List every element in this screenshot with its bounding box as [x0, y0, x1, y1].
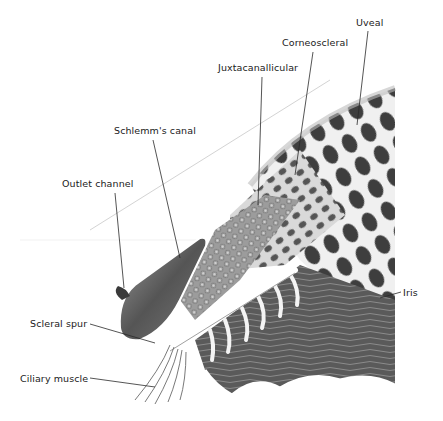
label-ciliary-muscle: Ciliary muscle — [20, 373, 88, 384]
label-juxtacanallicular: Juxtacanallicular — [218, 62, 298, 73]
label-uveal: Uveal — [356, 17, 383, 28]
label-schlemms-canal: Schlemm's canal — [114, 125, 196, 136]
label-corneoscleral: Corneoscleral — [282, 37, 348, 48]
label-scleral-spur: Scleral spur — [30, 318, 87, 329]
label-iris: Iris — [403, 287, 418, 298]
ciliary-muscle — [135, 345, 186, 404]
label-outlet-channel: Outlet channel — [62, 178, 133, 189]
